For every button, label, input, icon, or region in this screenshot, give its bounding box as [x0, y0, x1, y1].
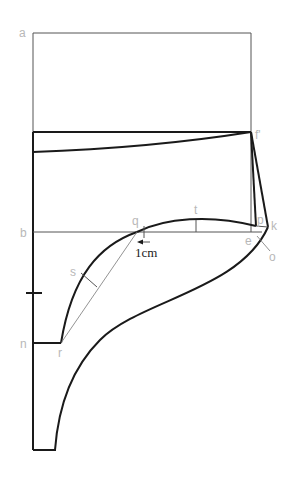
s-bisector-line	[81, 273, 97, 287]
label-o: o	[269, 250, 276, 264]
offset-arrow-icon	[137, 240, 143, 245]
pattern-diagram: a f' b q t p k e o s n r 1cm	[0, 0, 300, 479]
inseam-curve	[55, 227, 268, 450]
label-k: k	[271, 219, 278, 233]
r-to-q-line	[61, 232, 137, 343]
label-1cm: 1cm	[135, 245, 157, 260]
label-f-prime: f'	[255, 128, 261, 142]
label-t: t	[194, 203, 198, 217]
label-e: e	[245, 234, 252, 248]
label-n: n	[20, 337, 27, 351]
label-a: a	[19, 26, 26, 40]
waist-curve	[33, 132, 251, 152]
label-r: r	[58, 346, 62, 360]
label-p: p	[257, 213, 264, 227]
label-q: q	[132, 214, 139, 228]
label-b: b	[20, 226, 27, 240]
label-s: s	[70, 265, 76, 279]
